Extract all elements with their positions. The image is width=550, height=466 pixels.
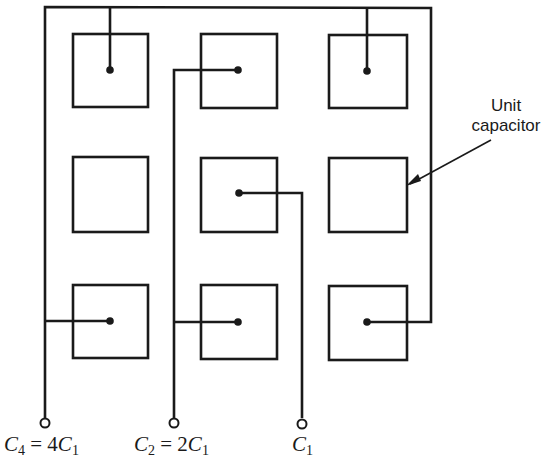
contact-dot-r2c2 <box>235 189 243 197</box>
unit-capacitor-label-line1: Unit <box>462 96 550 116</box>
terminal-c2-icon <box>170 419 179 428</box>
contact-dot-r3c1 <box>106 317 114 325</box>
unit-capacitor-r2c1 <box>73 157 148 232</box>
terminal-label-c4: C4 = 4C1 <box>4 432 79 459</box>
symbol: C <box>292 432 306 456</box>
terminal-label-c2: C2 = 2C1 <box>134 432 209 459</box>
equals: = 4 <box>25 432 58 456</box>
terminal-c4-icon <box>41 419 50 428</box>
equals: = 2 <box>155 432 188 456</box>
symbol: C <box>188 432 202 456</box>
annotation-arrow-line <box>410 140 491 184</box>
diagram-graphic <box>0 0 550 466</box>
subscript: 4 <box>18 443 25 458</box>
contact-dot-r3c3 <box>363 318 371 326</box>
capacitor-array-diagram: Unit capacitor C4 = 4C1 C2 = 2C1 C1 <box>0 0 550 466</box>
contact-dot-r1c3 <box>363 67 371 75</box>
subscript: 2 <box>148 443 155 458</box>
unit-capacitor-r2c3 <box>329 158 407 232</box>
c2-wire <box>174 70 238 418</box>
c1-wire <box>238 193 302 418</box>
subscript: 1 <box>72 443 79 458</box>
unit-capacitor-label: Unit capacitor <box>462 96 550 136</box>
terminal-label-c1: C1 <box>292 432 313 459</box>
contact-dot-r1c1 <box>106 66 114 74</box>
symbol: C <box>4 432 18 456</box>
contact-dot-r3c2 <box>234 318 242 326</box>
contact-dot-r1c2 <box>234 66 242 74</box>
terminal-c1-icon <box>298 420 307 429</box>
unit-capacitor-label-line2: capacitor <box>462 116 550 136</box>
subscript: 1 <box>306 443 313 458</box>
symbol: C <box>58 432 72 456</box>
subscript: 1 <box>202 443 209 458</box>
symbol: C <box>134 432 148 456</box>
